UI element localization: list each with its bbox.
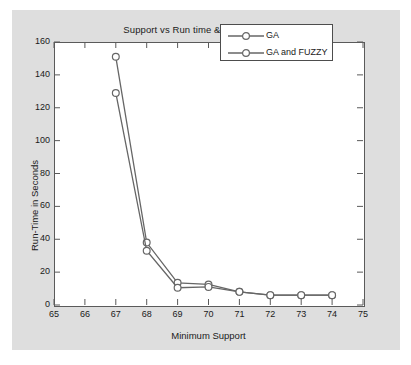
x-tick-label: 65 bbox=[42, 310, 66, 319]
series-marker-1 bbox=[112, 90, 119, 97]
legend-label: GA and FUZZY bbox=[266, 47, 328, 57]
x-tick-label: 66 bbox=[73, 310, 97, 319]
x-tick-label: 75 bbox=[351, 310, 375, 319]
legend-label: GA bbox=[266, 30, 279, 40]
legend-sample-icon bbox=[226, 45, 268, 61]
series-line-0 bbox=[116, 57, 332, 295]
legend-item[interactable]: GA bbox=[221, 27, 334, 45]
series-marker-1 bbox=[143, 247, 150, 254]
y-tick-label: 40 bbox=[20, 234, 50, 243]
legend-sample-icon bbox=[226, 28, 268, 44]
y-tick-label: 160 bbox=[20, 37, 50, 46]
y-tick-label: 20 bbox=[20, 267, 50, 276]
y-tick-label: 80 bbox=[20, 169, 50, 178]
series-marker-1 bbox=[329, 292, 336, 299]
series-marker-1 bbox=[205, 284, 212, 291]
y-tick-label: 0 bbox=[20, 300, 50, 309]
x-tick-label: 70 bbox=[197, 310, 221, 319]
plot-series-layer bbox=[54, 42, 363, 305]
series-marker-0 bbox=[112, 53, 119, 60]
series-marker-1 bbox=[267, 292, 274, 299]
y-tick-label: 120 bbox=[20, 103, 50, 112]
x-axis-tick-labels: 6566676869707172737475 bbox=[54, 310, 363, 326]
series-marker-1 bbox=[236, 288, 243, 295]
legend-marker-icon bbox=[243, 50, 250, 57]
figure-canvas: Support vs Run time & Confidence=95 Run-… bbox=[12, 10, 400, 350]
legend: GAGA and FUZZY bbox=[220, 24, 333, 61]
y-axis-tick-labels: 020406080100120140160 bbox=[18, 42, 50, 305]
x-tick-label: 73 bbox=[289, 310, 313, 319]
x-tick-label: 72 bbox=[258, 310, 282, 319]
x-tick-label: 67 bbox=[104, 310, 128, 319]
y-tick-label: 140 bbox=[20, 70, 50, 79]
y-tick-label: 60 bbox=[20, 201, 50, 210]
legend-item[interactable]: GA and FUZZY bbox=[221, 44, 334, 62]
x-tick-label: 74 bbox=[320, 310, 344, 319]
series-marker-1 bbox=[174, 284, 181, 291]
series-line-1 bbox=[116, 93, 332, 295]
x-axis-label: Minimum Support bbox=[54, 330, 363, 341]
x-tick-label: 69 bbox=[166, 310, 190, 319]
legend-marker-icon bbox=[243, 33, 250, 40]
x-tick-label: 71 bbox=[227, 310, 251, 319]
y-tick-label: 100 bbox=[20, 136, 50, 145]
chart-title: Support vs Run time & Confidence=95 bbox=[12, 24, 400, 35]
x-tick-label: 68 bbox=[135, 310, 159, 319]
series-marker-1 bbox=[298, 292, 305, 299]
